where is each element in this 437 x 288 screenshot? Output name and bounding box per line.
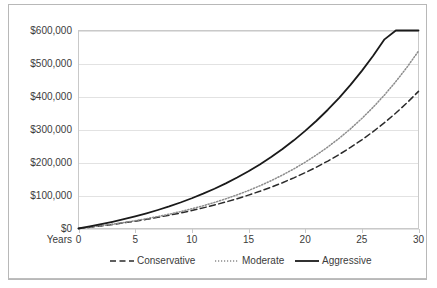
series-line-moderate — [79, 51, 419, 228]
x-axis-tick-labels: 051015202530 — [76, 234, 425, 245]
x-axis-tick-label: 15 — [243, 234, 255, 245]
y-axis-tick-label: $300,000 — [30, 124, 72, 135]
x-axis-tick-label: 10 — [186, 234, 198, 245]
plot-area-rect — [79, 31, 419, 229]
legend-label-conservative: Conservative — [137, 255, 196, 266]
legend-label-moderate: Moderate — [242, 255, 285, 266]
legend-item-aggressive[interactable]: Aggressive — [295, 255, 372, 266]
legend-item-moderate[interactable]: Moderate — [215, 255, 285, 266]
chart-legend: ConservativeModerateAggressive — [110, 255, 372, 266]
x-axis-title: Years — [47, 234, 72, 245]
x-axis-tick-label: 5 — [132, 234, 138, 245]
gridlines — [79, 32, 419, 230]
chart-container: $0$100,000$200,000$300,000$400,000$500,0… — [0, 0, 437, 288]
y-axis-tick-labels: $0$100,000$200,000$300,000$400,000$500,0… — [30, 25, 72, 234]
y-axis-tick-label: $200,000 — [30, 157, 72, 168]
y-axis-tick-label: $0 — [61, 223, 73, 234]
x-axis-tick-label: 20 — [300, 234, 312, 245]
y-axis-tick-label: $100,000 — [30, 190, 72, 201]
series-line-aggressive — [79, 31, 419, 229]
legend-item-conservative[interactable]: Conservative — [110, 255, 196, 266]
y-axis-tick-label: $400,000 — [30, 91, 72, 102]
growth-projection-chart: $0$100,000$200,000$300,000$400,000$500,0… — [0, 0, 437, 288]
plot-area-frame — [79, 31, 419, 229]
y-axis-tick-label: $500,000 — [30, 58, 72, 69]
x-axis-tick-label: 30 — [413, 234, 425, 245]
y-axis-tick-label: $600,000 — [30, 25, 72, 36]
data-series — [79, 31, 419, 229]
x-axis-tick-label: 25 — [356, 234, 368, 245]
x-axis-tick-label: 0 — [76, 234, 82, 245]
legend-label-aggressive: Aggressive — [322, 255, 372, 266]
